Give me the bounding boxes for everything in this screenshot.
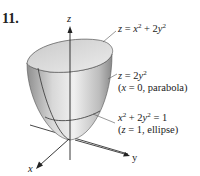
equals: = 2 [122, 70, 138, 81]
parabola-note: (x = 0, parabola) [118, 82, 188, 94]
ellipse-equation: x2 + 2y2 = 1 [118, 112, 178, 124]
exponent: 2 [163, 22, 167, 30]
leader-surface [103, 31, 116, 42]
y-axis-label: y [132, 152, 137, 164]
z-axis-arrow [68, 26, 73, 33]
equals: = [122, 23, 133, 34]
ellipse-trace-label: x2 + 2y2 = 1 (z = 1, ellipse) [118, 112, 178, 136]
note-text: = 1, ellipse) [126, 124, 179, 135]
ellipse-note: (z = 1, ellipse) [118, 124, 178, 136]
exponent: 2 [143, 69, 147, 77]
note-text: = 0, parabola) [126, 82, 187, 93]
parabola-equation: z = 2y2 [118, 70, 188, 82]
x-axis [40, 139, 69, 165]
plus: + 2 [141, 23, 157, 34]
z-axis-label: z [67, 13, 71, 25]
surface-equation-label: z = x2 + 2y2 [118, 23, 166, 35]
x-axis-arrow [36, 162, 43, 170]
plus: + 2 [126, 112, 142, 123]
x-axis-label: x [28, 163, 33, 175]
problem-number: 11. [2, 11, 19, 27]
equals-one: = 1 [151, 112, 167, 123]
parabola-trace-label: z = 2y2 (x = 0, parabola) [118, 70, 188, 94]
